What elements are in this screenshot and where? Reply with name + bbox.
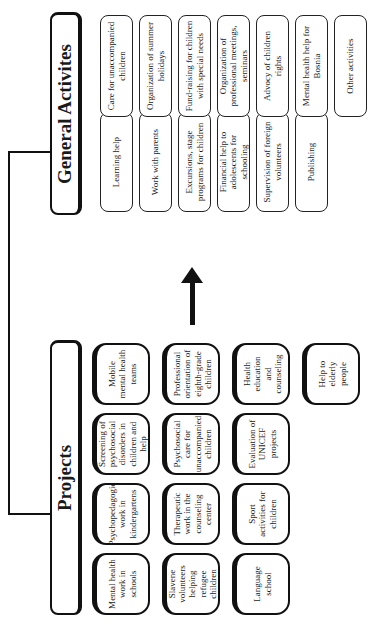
general-activity-box: Financial help to adolescents for school… bbox=[217, 112, 250, 212]
project-box: Health education and counseling bbox=[232, 343, 290, 405]
general-activity-label: Other activities bbox=[345, 38, 355, 93]
projects-header: Projects bbox=[50, 340, 82, 615]
connector-general-drop bbox=[8, 151, 50, 153]
project-box: Help to elderly people bbox=[302, 343, 360, 405]
general-activity-box: Organization of professional meetings, s… bbox=[217, 15, 250, 117]
project-box: Therapeutic work in the counseling cente… bbox=[162, 483, 220, 545]
general-activity-label: Advocy of children rights bbox=[262, 20, 283, 112]
general-activity-box: Other activities bbox=[334, 15, 367, 117]
general-activity-label: Care for unaccompanied children bbox=[106, 20, 127, 112]
project-label: Help to elderly people bbox=[317, 349, 348, 399]
general-activity-label: Financial help to adolescents for school… bbox=[218, 117, 249, 207]
general-activity-label: Fund-raising for children with special n… bbox=[184, 20, 205, 112]
project-box: Psychopedagogic work in kindergartens bbox=[92, 483, 150, 545]
project-label: Health education and counseling bbox=[242, 349, 283, 399]
diagram-canvas: Projects General Activites Mobile mental… bbox=[0, 0, 385, 635]
general-activity-box: Excursions, stage programs for children bbox=[178, 112, 211, 212]
general-activity-label: Learning help bbox=[111, 137, 121, 187]
general-activity-box: Publishing bbox=[295, 112, 328, 212]
general-activity-label: Mental health help for Bosnia bbox=[301, 20, 322, 112]
general-activity-box: Care for unaccompanied children bbox=[100, 15, 133, 117]
general-activity-box: Supervision of foreign volunteers bbox=[256, 112, 289, 212]
connector-projects-drop bbox=[8, 513, 50, 515]
project-box: Mobile mental health teams bbox=[92, 343, 150, 405]
project-label: Mental health work in schools bbox=[107, 559, 138, 609]
general-activity-label: Organization of professional meetings, s… bbox=[218, 20, 249, 112]
general-activity-label: Work with parents bbox=[150, 129, 160, 195]
project-box: Slavene volunteers helping refugee child… bbox=[162, 553, 220, 615]
project-label: Screening of psychosocial disorders in c… bbox=[97, 419, 149, 469]
project-box: Psychosocial care for unaccompanied chil… bbox=[162, 413, 220, 475]
project-box: Professional orientation of eighth-grade… bbox=[162, 343, 220, 405]
project-label: Psychosocial care for unaccompanied chil… bbox=[172, 416, 213, 472]
project-label: Professional orientation of eighth-grade… bbox=[172, 349, 213, 399]
general-activity-box: Learning help bbox=[100, 112, 133, 212]
general-activities-header-label: General Activites bbox=[54, 44, 76, 184]
project-label: Sport activities for children bbox=[247, 489, 278, 539]
general-activity-label: Excursions, stage programs for children bbox=[184, 117, 205, 207]
general-activity-box: Mental health help for Bosnia bbox=[295, 15, 328, 117]
general-activity-label: Organization of summer holidays bbox=[145, 20, 166, 112]
project-box: Sport activities for children bbox=[232, 483, 290, 545]
projects-header-label: Projects bbox=[54, 445, 76, 511]
project-box: Evaluation of UNICEF projects bbox=[232, 413, 290, 475]
arrow-head-icon bbox=[181, 267, 203, 283]
general-activity-label: Supervision of foreign volunteers bbox=[262, 117, 283, 207]
general-activity-box: Organization of summer holidays bbox=[139, 15, 172, 117]
general-activities-header: General Activites bbox=[50, 12, 82, 215]
project-label: Mobile mental health teams bbox=[107, 349, 138, 399]
project-label: Psychopedagogic work in kindergartens bbox=[107, 483, 138, 546]
project-label: Therapeutic work in the counseling cente… bbox=[172, 489, 213, 539]
project-box: Mental health work in schools bbox=[92, 553, 150, 615]
project-box: Screening of psychosocial disorders in c… bbox=[92, 413, 150, 475]
project-label: Slavene volunteers helping refugee child… bbox=[167, 559, 219, 609]
arrow-shaft bbox=[190, 281, 195, 325]
project-label: Evaluation of UNICEF projects bbox=[247, 419, 278, 469]
general-activity-box: Advocy of children rights bbox=[256, 15, 289, 117]
general-activity-box: Fund-raising for children with special n… bbox=[178, 15, 211, 117]
general-activity-label: Publishing bbox=[306, 143, 316, 182]
connector-horizontal bbox=[8, 151, 10, 515]
project-box: Language school bbox=[232, 553, 290, 615]
general-activity-box: Work with parents bbox=[139, 112, 172, 212]
project-label: Language school bbox=[252, 559, 273, 609]
